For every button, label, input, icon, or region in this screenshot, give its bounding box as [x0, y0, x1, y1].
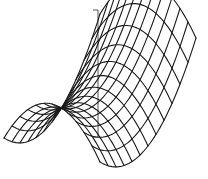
- saddle-wireframe-plot: [0, 0, 208, 179]
